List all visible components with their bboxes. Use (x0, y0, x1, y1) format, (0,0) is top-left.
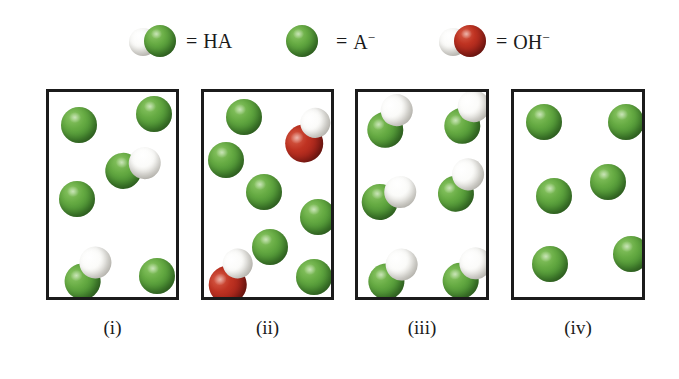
panel-ii-contents (204, 92, 331, 297)
acid-base-particle-diagram: =HA=A−=OH− (i)(ii)(iii)(iv) (0, 0, 679, 379)
legend-equals-sign: = (494, 31, 513, 51)
hydrogen-oxygen-pair-icon (438, 21, 494, 61)
legend-charge-superscript: − (368, 30, 375, 45)
legend-label-oh: OH− (513, 31, 549, 52)
green-sphere-icon (246, 174, 282, 210)
green-sphere-icon (144, 25, 176, 57)
panel-i-label: (i) (46, 318, 179, 337)
green-sphere-icon (532, 246, 568, 282)
green-sphere-icon (590, 164, 626, 200)
legend-charge-superscript: − (542, 30, 549, 45)
oxygen-red-sphere-icon (454, 25, 486, 57)
green-sphere-icon (136, 96, 172, 132)
legend-label-a: A− (353, 31, 375, 52)
legend-formula-text: OH (513, 30, 542, 52)
legend-formula-text: A (353, 30, 367, 52)
green-sphere-icon (526, 104, 562, 140)
panel-iv-label: (iv) (511, 318, 645, 337)
panel-iv-contents (514, 92, 642, 297)
panel-iii-contents (358, 92, 486, 297)
green-sphere-icon (278, 21, 334, 61)
green-sphere-icon (61, 107, 97, 143)
panel-ii (201, 89, 334, 300)
green-sphere-icon (59, 181, 95, 217)
hydrogen-green-pair-icon (128, 21, 184, 61)
legend: =HA=A−=OH− (0, 18, 679, 68)
legend-equals-sign: = (334, 31, 353, 51)
green-sphere-icon (286, 25, 318, 57)
panel-i-contents (49, 92, 176, 297)
legend-item-a: =A− (278, 18, 375, 64)
green-sphere-icon (226, 99, 262, 135)
green-sphere-icon (296, 259, 332, 295)
panel-iii (355, 89, 489, 300)
green-sphere-icon (252, 229, 288, 265)
green-sphere-icon (139, 258, 175, 294)
green-sphere-icon (536, 178, 572, 214)
green-sphere-icon (613, 236, 645, 272)
panel-i (46, 89, 179, 300)
green-sphere-icon (608, 104, 644, 140)
legend-equals-sign: = (184, 31, 203, 51)
green-sphere-icon (208, 142, 244, 178)
legend-item-oh: =OH− (438, 18, 550, 64)
panel-iii-label: (iii) (355, 318, 489, 337)
legend-formula-text: HA (203, 30, 232, 52)
green-sphere-icon (300, 199, 334, 235)
panel-ii-label: (ii) (201, 318, 334, 337)
panel-iv (511, 89, 645, 300)
legend-item-ha: =HA (128, 18, 232, 64)
legend-label-ha: HA (203, 31, 232, 51)
